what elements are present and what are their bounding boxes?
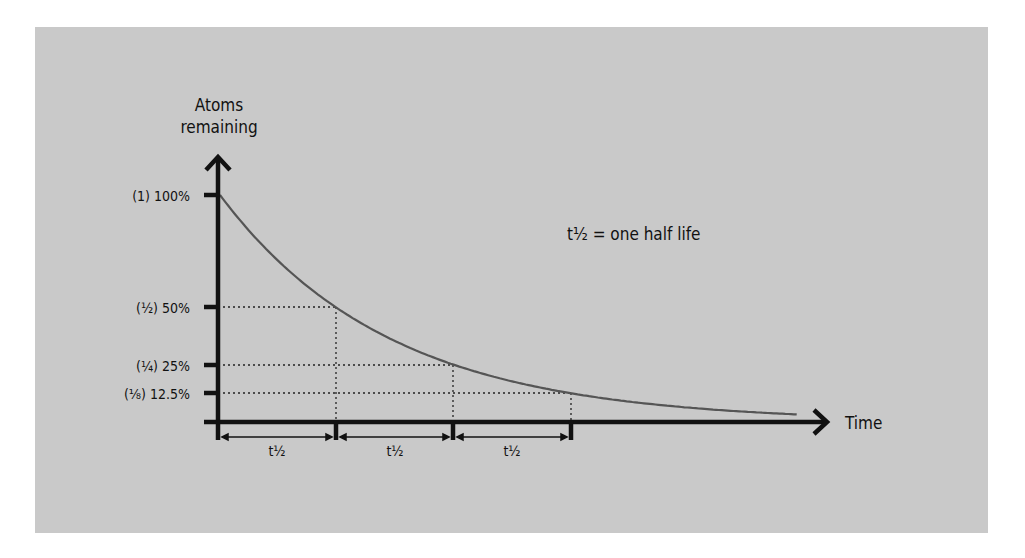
y-tick-label-25: (¼) 25% bbox=[136, 358, 190, 374]
y-axis-title-line1: Atoms bbox=[195, 95, 243, 115]
x-axis-title: Time bbox=[844, 413, 882, 433]
x-interval-label-1: t½ bbox=[268, 443, 285, 459]
x-interval-label-3: t½ bbox=[503, 443, 520, 459]
y-tick-label-100: (1) 100% bbox=[132, 188, 190, 204]
axes bbox=[204, 158, 825, 440]
y-axis-title-line2: remaining bbox=[180, 117, 257, 137]
x-interval-label-2: t½ bbox=[386, 443, 403, 459]
guide-lines bbox=[218, 307, 571, 422]
y-tick-label-12-5: (⅛) 12.5% bbox=[124, 386, 190, 402]
half-life-annotation: t½ = one half life bbox=[567, 224, 701, 244]
y-tick-label-50: (½) 50% bbox=[136, 300, 190, 316]
decay-curve bbox=[220, 195, 797, 414]
half-life-chart: Atoms remaining (1) 100% (½) 50% (¼) 25%… bbox=[0, 0, 1025, 558]
interval-arrows bbox=[222, 434, 567, 440]
